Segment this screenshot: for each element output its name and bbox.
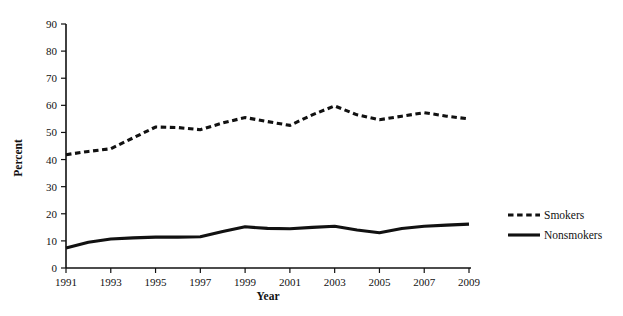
- y-tick-label: 20: [46, 208, 58, 220]
- y-tick-label: 60: [46, 99, 58, 111]
- y-tick-label: 0: [52, 262, 58, 274]
- chart-root: 0102030405060708090 19911993199519971999…: [0, 0, 623, 316]
- legend-label-smokers: Smokers: [544, 209, 585, 221]
- series-line-smokers: [66, 106, 469, 155]
- x-axis-title: Year: [257, 290, 280, 302]
- x-tick-label: 2005: [368, 276, 391, 288]
- x-tick-label: 1993: [100, 276, 123, 288]
- series-line-nonsmokers: [66, 224, 469, 248]
- y-tick-label: 40: [46, 154, 58, 166]
- y-tick-label: 90: [46, 18, 58, 30]
- x-tick-label: 1997: [189, 276, 212, 288]
- x-tick-label: 2007: [413, 276, 436, 288]
- legend-label-nonsmokers: Nonsmokers: [544, 229, 603, 241]
- y-tick-label: 30: [46, 181, 58, 193]
- y-tick-label: 10: [46, 235, 58, 247]
- y-axis-ticks: 0102030405060708090: [46, 18, 66, 274]
- chart-canvas: 0102030405060708090 19911993199519971999…: [0, 0, 623, 316]
- x-tick-label: 2001: [279, 276, 301, 288]
- chart-legend: SmokersNonsmokers: [508, 209, 603, 241]
- x-tick-label: 1995: [145, 276, 168, 288]
- y-tick-label: 80: [46, 45, 58, 57]
- x-tick-label: 1999: [234, 276, 257, 288]
- x-tick-label: 2003: [324, 276, 347, 288]
- x-axis-ticks: 1991199319951997199920012003200520072009: [55, 268, 481, 288]
- x-tick-label: 2009: [458, 276, 481, 288]
- x-tick-label: 1991: [55, 276, 77, 288]
- y-tick-label: 70: [46, 72, 58, 84]
- line-chart: 0102030405060708090 19911993199519971999…: [0, 0, 623, 316]
- y-axis-title: Percent: [12, 139, 24, 177]
- y-tick-label: 50: [46, 126, 58, 138]
